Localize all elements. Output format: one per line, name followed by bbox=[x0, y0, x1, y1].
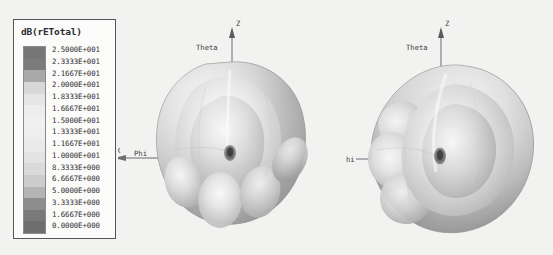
colorbar-band bbox=[24, 152, 45, 164]
colorbar-band bbox=[24, 221, 45, 233]
colorbar-band bbox=[24, 70, 45, 82]
axis-label-z: Z bbox=[445, 19, 450, 28]
legend-tick-label: 1.1667E+001 bbox=[52, 138, 114, 150]
legend-tick-label: 2.5000E+001 bbox=[52, 44, 114, 56]
legend-tick-label: 3.3333E+000 bbox=[52, 197, 114, 209]
colorbar-band bbox=[24, 59, 45, 71]
radiation-pattern-left[interactable]: Z Theta X Phi bbox=[118, 0, 340, 255]
legend-tick-label: 8.3333E+000 bbox=[52, 162, 114, 174]
axis-label-z: Z bbox=[236, 19, 241, 28]
legend-tick-label: 1.6667E+000 bbox=[52, 209, 114, 221]
colorbar bbox=[23, 46, 46, 234]
axis-label-theta: Theta bbox=[196, 43, 218, 52]
legend-tick-label: 5.0000E+000 bbox=[52, 185, 114, 197]
legend-tick-labels: 2.5000E+0012.3333E+0012.1667E+0012.0000E… bbox=[52, 44, 114, 236]
colorbar-band bbox=[24, 117, 45, 129]
lobe-surface bbox=[364, 65, 533, 233]
colorbar-band bbox=[24, 82, 45, 94]
colorbar-band bbox=[24, 140, 45, 152]
legend-tick-label: 2.1667E+001 bbox=[52, 68, 114, 80]
legend-title: dB(rETotal) bbox=[21, 26, 82, 37]
lobe-surface bbox=[157, 62, 315, 228]
axis-label-phi: Phi bbox=[134, 149, 147, 158]
colorbar-band bbox=[24, 105, 45, 117]
colorbar-band bbox=[24, 187, 45, 199]
legend-tick-label: 1.0000E+001 bbox=[52, 150, 114, 162]
colorbar-band bbox=[24, 175, 45, 187]
legend-panel: dB(rETotal) 2.5000E+0012.3333E+0012.1667… bbox=[13, 19, 116, 239]
legend-tick-label: 1.5000E+001 bbox=[52, 115, 114, 127]
colorbar-band bbox=[24, 47, 45, 59]
axis-label-phi: hi bbox=[346, 155, 355, 164]
colorbar-band bbox=[24, 94, 45, 106]
colorbar-band bbox=[24, 128, 45, 140]
legend-tick-label: 6.6667E+000 bbox=[52, 173, 114, 185]
axis-label-theta: Theta bbox=[406, 43, 428, 52]
screenshot-root: dB(rETotal) 2.5000E+0012.3333E+0012.1667… bbox=[0, 0, 553, 255]
legend-tick-label: 1.8333E+001 bbox=[52, 91, 114, 103]
legend-tick-label: 2.3333E+001 bbox=[52, 56, 114, 68]
colorbar-band bbox=[24, 210, 45, 222]
axis-arrow-z bbox=[438, 27, 444, 38]
axis-label-x: X bbox=[118, 146, 121, 155]
legend-body: 2.5000E+0012.3333E+0012.1667E+0012.0000E… bbox=[14, 44, 115, 236]
legend-tick-label: 1.6667E+001 bbox=[52, 103, 114, 115]
legend-tick-label: 2.0000E+001 bbox=[52, 79, 114, 91]
colorbar-band bbox=[24, 198, 45, 210]
legend-tick-label: 0.0000E+000 bbox=[52, 220, 114, 232]
axis-arrow-x bbox=[118, 155, 126, 161]
radiation-pattern-right[interactable]: Z Theta hi bbox=[340, 0, 553, 255]
axis-arrow-z bbox=[229, 27, 235, 38]
legend-tick-label: 1.3333E+001 bbox=[52, 126, 114, 138]
colorbar-band bbox=[24, 163, 45, 175]
